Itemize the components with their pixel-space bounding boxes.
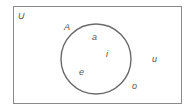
element-i: i <box>106 50 108 59</box>
element-a: a <box>92 33 97 42</box>
element-u: u <box>152 55 157 64</box>
universal-set-label: U <box>18 12 25 21</box>
set-a-label: A <box>64 23 70 32</box>
element-e: e <box>79 68 84 77</box>
venn-diagram <box>0 0 190 109</box>
element-o: o <box>132 82 137 91</box>
